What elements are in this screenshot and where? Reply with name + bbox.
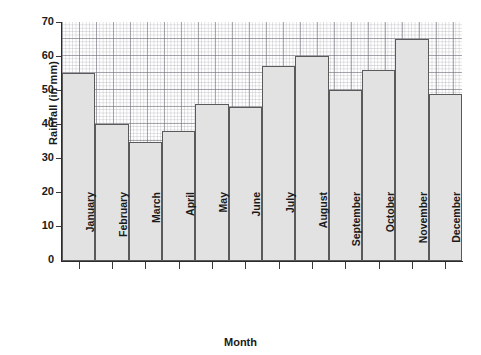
y-tick-label-40: 40 [24,117,54,130]
x-tick-label-may: May [217,192,231,272]
y-tick-label-50: 50 [24,83,54,96]
y-tick-label-10: 10 [24,219,54,232]
y-tick-label-30: 30 [24,151,54,164]
x-tick-mark-february [112,262,113,269]
y-tick-label-0: 0 [24,253,54,266]
x-tick-mark-march [145,262,146,269]
x-tick-mark-april [179,262,180,269]
x-tick-label-january: January [84,192,98,272]
x-tick-mark-september [345,262,346,269]
x-tick-label-february: February [117,192,131,272]
x-tick-label-august: August [317,192,331,272]
x-tick-mark-november [412,262,413,269]
y-tick-label-20: 20 [24,185,54,198]
x-tick-mark-july [279,262,280,269]
y-axis-line [61,22,62,262]
x-tick-label-april: April [184,192,198,272]
x-tick-label-march: March [150,192,164,272]
x-axis-title: Month [0,336,481,348]
x-tick-mark-august [312,262,313,269]
y-tick-label-70: 70 [24,15,54,28]
x-tick-mark-december [445,262,446,269]
y-tick-label-60: 60 [24,49,54,62]
bar-chart-figure: Rainfall (in mm) 70 60 50 40 30 20 10 0 … [0,0,481,355]
x-tick-label-october: October [384,192,398,272]
x-tick-mark-june [245,262,246,269]
x-tick-label-july: July [284,192,298,272]
x-tick-mark-may [212,262,213,269]
x-tick-mark-october [379,262,380,269]
x-tick-label-november: November [417,192,431,272]
x-tick-label-september: September [350,192,364,272]
x-tick-mark-january [79,262,80,269]
x-tick-label-december: December [450,192,464,272]
x-tick-label-june: June [250,192,264,272]
